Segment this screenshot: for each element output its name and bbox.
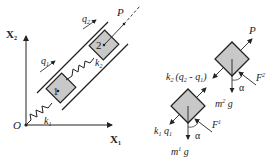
fbd1-weight-label: m1 g: [171, 146, 189, 157]
guide-rail-lower: [62, 44, 128, 110]
fbd2-weight-label: m2 g: [215, 98, 233, 109]
spring-k1-label: k1: [44, 115, 51, 127]
fbd2-spring-force-label: k2(q2 - q1): [166, 71, 207, 83]
x1-axis-label: X1: [110, 133, 121, 146]
fbd1-alpha: α: [195, 130, 201, 141]
x2-axis-label: X2: [6, 28, 17, 41]
angle-1-arc: [188, 123, 198, 127]
spring-force-1-arrow: [170, 115, 179, 124]
right-panel: P α m2 g F2 k2(q2 - q1) α m1 g F1 k1 q1: [154, 24, 265, 157]
force-p-label: P: [116, 6, 124, 18]
origin-label: O: [13, 119, 21, 131]
spring-k2: [66, 58, 94, 80]
force-p-arrow: [241, 39, 252, 50]
diagram-canvas: O X1 X2 k1 1 k2 2 P q1 q2: [0, 0, 278, 165]
force-p-dashed: [124, 6, 140, 24]
spring-k2-label: k2: [95, 57, 102, 69]
mass-2-label: 2: [96, 39, 102, 51]
mass-1-label: 1: [53, 85, 59, 97]
fbd2-p-label: P: [248, 24, 256, 36]
q2-label: q2: [82, 13, 90, 25]
angle-2-arc: [232, 76, 242, 80]
mass-1-block: [46, 73, 76, 103]
fbd2-alpha: α: [239, 82, 245, 93]
spring-force-2-arrow: [213, 68, 223, 78]
spring-force-up-arrow: [197, 88, 206, 97]
fbd-body-1: α m1 g F1 k1 q1: [154, 88, 221, 157]
fbd2-friction-label: F2: [255, 72, 265, 83]
left-panel: O X1 X2 k1 1 k2 2 P q1 q2: [6, 6, 140, 146]
q1-label: q1: [41, 55, 49, 67]
fbd1-spring-force-label: k1 q1: [154, 125, 172, 137]
fbd1-friction-label: F1: [211, 119, 221, 130]
